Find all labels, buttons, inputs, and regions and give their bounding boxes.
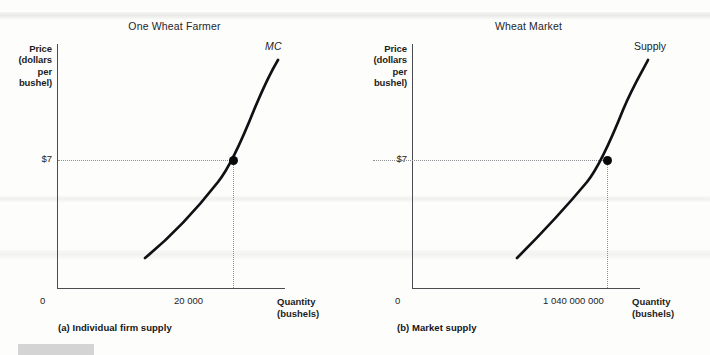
equilibrium-point-panel-a — [229, 156, 238, 165]
x-axis-label-panel-a: Quantity (bushels) — [277, 296, 353, 319]
x-axis-label-line-1: Quantity — [632, 296, 708, 308]
scan-artifact-corner-block — [18, 344, 94, 355]
x-axis-label-panel-b: Quantity (bushels) — [632, 296, 708, 319]
chart-panel-market-supply: Wheat Market Price (dollars per bushel) … — [355, 0, 710, 355]
x-axis-label-line-2: (bushels) — [632, 308, 708, 320]
equilibrium-point-panel-b — [603, 156, 612, 165]
chart-panel-individual-firm: One Wheat Farmer Price (dollars per bush… — [0, 0, 355, 355]
curve-label-mc: MC — [265, 40, 282, 52]
x-axis-label-line-1: Quantity — [277, 296, 353, 308]
x-axis-label-line-2: (bushels) — [277, 308, 353, 320]
panel-caption-a: (a) Individual firm supply — [58, 322, 172, 333]
panel-caption-b: (b) Market supply — [397, 322, 477, 333]
curve-label-supply: Supply — [634, 40, 666, 52]
